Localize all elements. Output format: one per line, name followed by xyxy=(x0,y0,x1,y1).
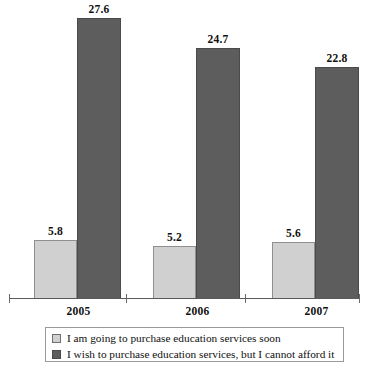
bar-2006-series-1[interactable] xyxy=(196,48,240,299)
legend-swatch-light-gray-square-icon xyxy=(52,334,61,343)
bar-chart: 5.8 27.6 5.2 24.7 5.6 22.8 2005 2006 200… xyxy=(0,0,366,365)
bar-2007-series-1[interactable] xyxy=(315,67,359,299)
bar-group-2006: 5.2 24.7 xyxy=(153,0,242,299)
bar-2007-series-0[interactable] xyxy=(272,242,315,299)
bar-value-2006-series-1: 24.7 xyxy=(194,33,242,46)
bar-value-2007-series-1: 22.8 xyxy=(313,52,361,65)
x-axis-tick-2 xyxy=(245,294,246,303)
x-axis-tick-end xyxy=(359,294,360,303)
bar-2006-series-0[interactable] xyxy=(153,246,196,299)
x-axis-tick-start xyxy=(9,294,10,303)
legend-label-1: I wish to purchase education services, b… xyxy=(67,348,334,361)
bar-group-2005: 5.8 27.6 xyxy=(34,0,123,299)
x-axis-label-2007: 2007 xyxy=(272,305,361,317)
bar-2005-series-1[interactable] xyxy=(77,18,121,299)
x-axis-label-2005: 2005 xyxy=(34,305,123,317)
legend: I am going to purchase education service… xyxy=(45,327,344,362)
bar-value-2005-series-0: 5.8 xyxy=(32,225,79,238)
bar-value-2005-series-1: 27.6 xyxy=(75,3,123,16)
plot-area: 5.8 27.6 5.2 24.7 5.6 22.8 xyxy=(0,0,366,299)
x-axis-label-2006: 2006 xyxy=(153,305,242,317)
bar-value-2006-series-0: 5.2 xyxy=(151,231,198,244)
legend-item-1[interactable]: I wish to purchase education services, b… xyxy=(52,347,343,362)
bar-value-2007-series-0: 5.6 xyxy=(270,227,317,240)
legend-swatch-dark-gray-square-icon xyxy=(52,350,61,359)
x-axis-tick-1 xyxy=(126,294,127,303)
x-axis-line xyxy=(9,298,360,299)
bar-2005-series-0[interactable] xyxy=(34,240,77,299)
legend-item-0[interactable]: I am going to purchase education service… xyxy=(52,331,343,346)
bar-group-2007: 5.6 22.8 xyxy=(272,0,361,299)
legend-label-0: I am going to purchase education service… xyxy=(67,332,281,345)
